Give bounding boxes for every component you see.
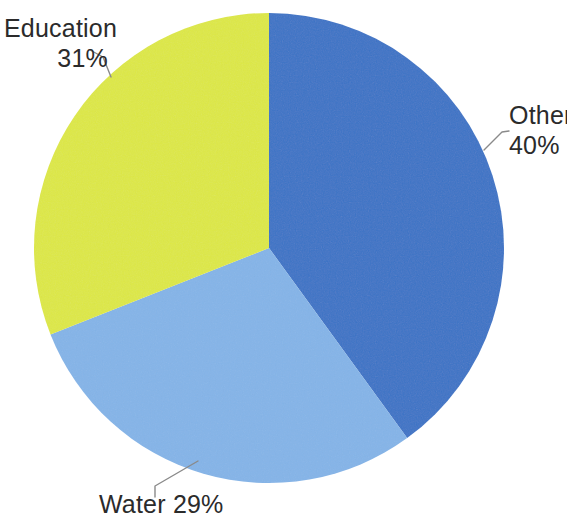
pie-chart-figure: Education 31% Other 40% Water 29% [0, 0, 567, 521]
slice-label-education-value: 31% [4, 43, 108, 73]
slice-label-other-value: 40% [509, 130, 567, 160]
slice-label-education-name: Education [4, 13, 108, 43]
pie-chart-canvas [0, 0, 567, 521]
slice-label-other: Other 40% [509, 100, 567, 160]
slice-label-other-name: Other [509, 100, 567, 130]
slice-label-water: Water 29% [99, 489, 224, 519]
leader-line-other [484, 131, 509, 150]
slice-label-education: Education 31% [4, 13, 108, 73]
slice-label-water-text: Water 29% [99, 489, 224, 519]
pie-slices [34, 13, 504, 483]
